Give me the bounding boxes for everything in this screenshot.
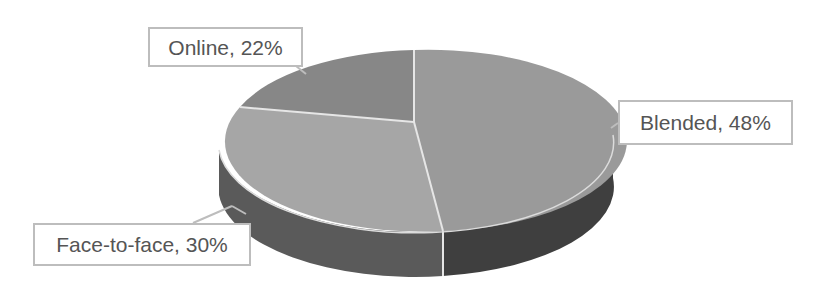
data-label-blended: Blended, 48% <box>618 100 793 145</box>
pie-top-face <box>219 50 627 233</box>
data-label-online: Online, 22% <box>148 27 303 67</box>
data-label-face-to-face: Face-to-face, 30% <box>33 223 251 266</box>
